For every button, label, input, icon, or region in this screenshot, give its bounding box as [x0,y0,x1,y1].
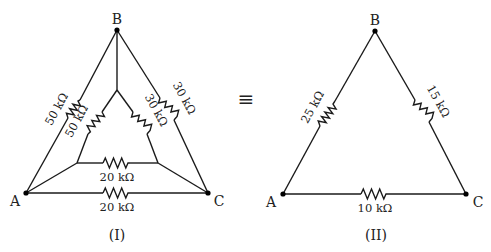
resistor-AB [283,31,375,194]
node-A-dot [280,191,285,196]
equivalence-symbol: ≡ [238,87,255,111]
node-B-dot [372,28,377,33]
circuit-I: 50 kΩ 50 kΩ 30 kΩ 30 kΩ 2 [9,11,224,243]
node-A-dot [23,190,28,195]
resistor-AB-inner [77,90,117,163]
node-B-label: B [370,12,380,28]
node-B-label: B [112,11,122,27]
resistor-AC-inner [77,158,158,168]
caption-II: (II) [365,227,387,243]
node-A-label: A [9,193,21,209]
circuit-diagram: 50 kΩ 50 kΩ 30 kΩ 30 kΩ 2 [0,0,491,252]
node-A-label: A [265,194,277,210]
label-AB-outer: 50 kΩ [42,90,71,127]
node-C-dot [463,191,468,196]
node-C-label: C [473,194,484,210]
label-AC: 10 kΩ [358,201,393,215]
node-C-dot [205,190,210,195]
label-AC-inner: 20 kΩ [100,170,135,184]
resistor-AB-outer [26,30,117,193]
label-BC-inner: 30 kΩ [142,91,171,128]
node-B-dot [114,27,119,32]
caption-I: (I) [109,227,125,243]
label-AB: 25 kΩ [298,88,327,125]
node-C-label: C [214,193,225,209]
resistor-AC [283,189,466,199]
resistor-AC-outer [26,188,208,198]
circuit-II: 25 kΩ 15 kΩ 10 kΩ B A C (II) [265,12,483,243]
label-AC-outer: 20 kΩ [100,200,135,214]
